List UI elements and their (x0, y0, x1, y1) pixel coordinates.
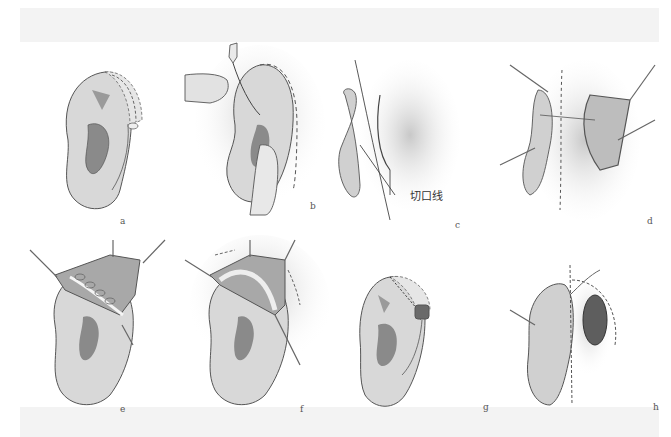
ear-illustration-e (25, 235, 185, 415)
panel-b: b (165, 35, 325, 215)
scan-band-top (20, 8, 659, 42)
ear-illustration-h (510, 265, 670, 437)
panel-label: e (120, 404, 125, 414)
ear-illustration-d (500, 50, 660, 230)
panel-h: h (510, 265, 670, 437)
ear-illustration-g (360, 265, 520, 437)
finger-top (185, 74, 228, 103)
panel-label: g (483, 402, 489, 412)
panel-label: f (300, 404, 303, 414)
panel-label: b (310, 201, 316, 211)
incision-line-label: 切口线 (410, 187, 443, 203)
panel-c: 切口线 c (350, 45, 510, 225)
panel-label: c (455, 220, 460, 230)
panel-label: d (647, 216, 653, 226)
ear-illustration-f (180, 235, 340, 415)
ear-illustration-b (165, 35, 325, 215)
panel-label: a (120, 216, 125, 226)
panel-f: f (180, 235, 340, 415)
panel-d: d (500, 50, 660, 230)
panel-label: h (653, 402, 659, 412)
panel-g: g (360, 265, 520, 437)
panel-e: e (25, 235, 185, 415)
